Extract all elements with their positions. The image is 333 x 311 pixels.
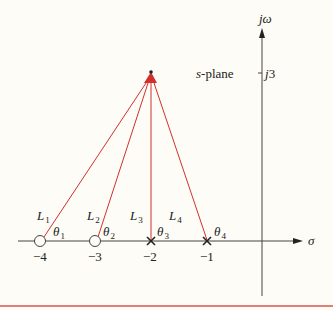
zero-marker-icon [35,236,46,247]
tick-label-minus1: −1 [200,250,214,263]
real-axis-arrow-icon [293,238,303,244]
zero-marker-icon [90,236,101,247]
real-axis-label: σ [308,234,314,247]
plane-label: s-plane [196,67,234,80]
tick-label-minus4: −4 [33,250,47,263]
imag-axis-arrow-icon [259,28,265,38]
length-label-l3: L3 [130,209,143,225]
angle-label-theta3: θ3 [157,225,169,241]
tick-label-minus3: −3 [88,250,102,263]
imag-axis-label: jω [259,12,272,25]
imag-tick-label: j3 [265,67,275,80]
angle-label-theta1: θ1 [53,225,65,241]
length-label-l2: L2 [87,209,100,225]
length-label-l1: L1 [37,209,50,225]
tick-label-minus2: −2 [143,250,157,263]
angle-label-theta4: θ4 [214,225,226,241]
s-plane-diagram [0,0,333,311]
test-point [149,70,153,74]
angle-label-theta2: θ2 [103,225,115,241]
length-label-l4: L4 [169,209,182,225]
